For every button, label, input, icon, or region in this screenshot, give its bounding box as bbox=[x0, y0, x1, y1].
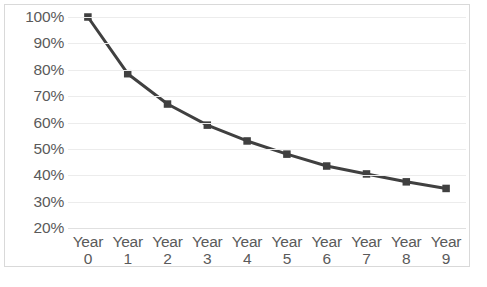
x-tick-label: Year8 bbox=[386, 233, 426, 267]
x-tick-label-value: 5 bbox=[267, 250, 307, 267]
x-tick-label-name: Year bbox=[426, 233, 466, 250]
x-tick-label-value: 3 bbox=[187, 250, 227, 267]
x-tick-label-name: Year bbox=[108, 233, 148, 250]
data-point-marker: Year 1: 78.5% bbox=[124, 70, 132, 78]
x-tick-label: Year6 bbox=[307, 233, 347, 267]
x-tick-label-name: Year bbox=[68, 233, 108, 250]
y-tick-label: 40% bbox=[10, 168, 64, 184]
gridline bbox=[68, 96, 466, 97]
x-tick-label-name: Year bbox=[386, 233, 426, 250]
data-point-marker: Year 6: 43.5% bbox=[323, 162, 331, 170]
y-tick-label: 80% bbox=[10, 62, 64, 78]
data-point-marker: Year 5: 48% bbox=[283, 150, 291, 158]
gridline bbox=[68, 43, 466, 44]
x-tick-label-name: Year bbox=[307, 233, 347, 250]
plot-area: Year 0: 100%Year 1: 78.5%Year 2: 67%Year… bbox=[68, 17, 466, 228]
gridline bbox=[68, 149, 466, 150]
x-tick-label-name: Year bbox=[267, 233, 307, 250]
y-tick-label: 100% bbox=[10, 9, 64, 25]
gridline bbox=[68, 175, 466, 176]
y-axis: 100%90%80%70%60%50%40%30%20% bbox=[5, 17, 64, 228]
x-tick-label: Year2 bbox=[148, 233, 188, 267]
data-point-marker: Year 4: 53% bbox=[243, 137, 251, 145]
y-tick-label: 70% bbox=[10, 88, 64, 104]
x-tick-label-name: Year bbox=[227, 233, 267, 250]
data-point-marker: Year 2: 67% bbox=[164, 100, 172, 108]
y-tick-label: 20% bbox=[10, 220, 64, 236]
x-axis: Year0Year1Year2Year3Year4Year5Year6Year7… bbox=[68, 233, 466, 267]
x-tick-label-name: Year bbox=[187, 233, 227, 250]
x-tick-label: Year4 bbox=[227, 233, 267, 267]
gridline bbox=[68, 228, 466, 229]
x-tick-label-value: 4 bbox=[227, 250, 267, 267]
y-tick-label: 30% bbox=[10, 194, 64, 210]
data-point-marker: Year 7: 40.5% bbox=[363, 170, 371, 178]
x-tick-label-value: 2 bbox=[148, 250, 188, 267]
x-tick-label-value: 6 bbox=[307, 250, 347, 267]
x-tick-label-value: 7 bbox=[347, 250, 387, 267]
gridline bbox=[68, 202, 466, 203]
y-tick-label: 90% bbox=[10, 36, 64, 52]
x-tick-label-value: 8 bbox=[386, 250, 426, 267]
data-point-marker: Year 8: 37.5% bbox=[403, 178, 411, 186]
x-tick-label: Year9 bbox=[426, 233, 466, 267]
x-tick-label: Year3 bbox=[187, 233, 227, 267]
x-tick-label: Year1 bbox=[108, 233, 148, 267]
y-tick-label: 50% bbox=[10, 141, 64, 157]
x-tick-label: Year0 bbox=[68, 233, 108, 267]
y-tick-label: 60% bbox=[10, 115, 64, 131]
x-tick-label-name: Year bbox=[347, 233, 387, 250]
x-tick-label-value: 9 bbox=[426, 250, 466, 267]
x-tick-label-value: 0 bbox=[68, 250, 108, 267]
x-tick-label: Year7 bbox=[347, 233, 387, 267]
x-tick-label-name: Year bbox=[148, 233, 188, 250]
chart-figure: 100%90%80%70%60%50%40%30%20% Year 0: 100… bbox=[4, 4, 470, 267]
gridline bbox=[68, 17, 466, 18]
x-tick-label: Year5 bbox=[267, 233, 307, 267]
gridline bbox=[68, 123, 466, 124]
gridline bbox=[68, 70, 466, 71]
x-tick-label-value: 1 bbox=[108, 250, 148, 267]
data-point-marker: Year 9: 35% bbox=[442, 185, 450, 193]
